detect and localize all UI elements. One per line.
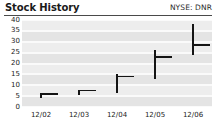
widget-header: Stock History NYSE: DNR bbox=[0, 0, 216, 17]
hlc-close-tick bbox=[78, 90, 95, 92]
x-axis: 12/0212/0312/0412/0512/06 bbox=[22, 109, 212, 121]
y-axis-tick-label: 0 bbox=[0, 104, 20, 111]
y-axis-tick-label: 25 bbox=[0, 49, 20, 56]
x-axis-tick-label: 12/02 bbox=[31, 111, 51, 119]
x-axis-tick-label: 12/04 bbox=[107, 111, 127, 119]
stock-history-chart: 0510152025303540 12/0212/0312/0412/0512/… bbox=[0, 17, 216, 122]
y-axis-tick-label: 5 bbox=[0, 93, 20, 100]
gridline bbox=[22, 52, 212, 54]
hlc-range-bar bbox=[192, 24, 194, 54]
y-axis-tick-label: 15 bbox=[0, 71, 20, 78]
y-axis-tick-label: 40 bbox=[0, 17, 20, 24]
hlc-range-bar bbox=[154, 50, 156, 78]
hlc-close-tick bbox=[192, 44, 209, 46]
hlc-close-tick bbox=[40, 93, 57, 95]
y-axis-tick-label: 20 bbox=[0, 60, 20, 67]
ticker-symbol: NYSE: DNR bbox=[170, 3, 212, 12]
gridline bbox=[22, 95, 212, 97]
y-axis-tick-label: 10 bbox=[0, 82, 20, 89]
stock-history-widget: Stock History NYSE: DNR 0510152025303540… bbox=[0, 0, 216, 122]
y-axis: 0510152025303540 bbox=[0, 20, 20, 107]
gridline bbox=[22, 106, 212, 107]
gridline bbox=[22, 30, 212, 32]
y-axis-tick-label: 35 bbox=[0, 27, 20, 34]
gridline bbox=[22, 63, 212, 65]
hlc-close-tick bbox=[116, 76, 133, 78]
x-axis-tick-label: 12/05 bbox=[145, 111, 165, 119]
gridline bbox=[22, 41, 212, 43]
page-title: Stock History bbox=[5, 2, 79, 13]
header-divider bbox=[4, 15, 212, 16]
gridline bbox=[22, 20, 212, 21]
hlc-close-tick bbox=[154, 56, 171, 58]
y-axis-tick-label: 30 bbox=[0, 38, 20, 45]
x-axis-tick-label: 12/03 bbox=[69, 111, 89, 119]
x-axis-tick-label: 12/06 bbox=[183, 111, 203, 119]
plot-area bbox=[22, 20, 212, 107]
